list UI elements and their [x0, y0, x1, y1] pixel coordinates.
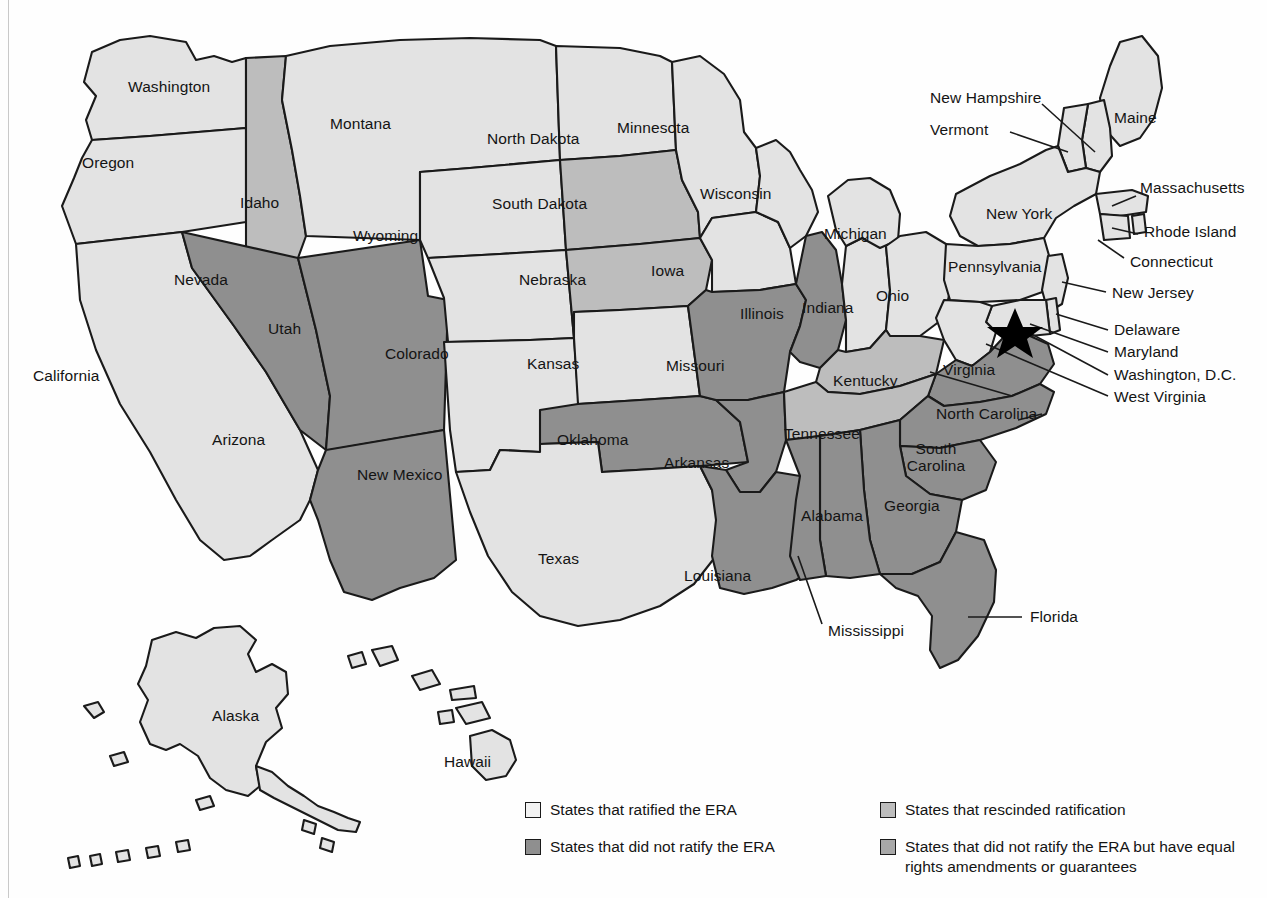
label-maryland: Maryland — [1114, 344, 1179, 361]
label-michigan: Michigan — [824, 226, 887, 243]
legend-column-2: States that rescinded ratification State… — [880, 800, 1255, 893]
legend-item-rescinded[interactable]: States that rescinded ratification — [880, 800, 1255, 820]
label-new-york: New York — [986, 206, 1052, 223]
label-pennsylvania: Pennsylvania — [948, 259, 1041, 276]
label-wyoming: Wyoming — [353, 228, 418, 245]
label-california: California — [33, 368, 99, 385]
state-missouri[interactable] — [688, 284, 806, 400]
hawaii-island-maui[interactable] — [456, 702, 490, 724]
label-maine: Maine — [1114, 110, 1157, 127]
label-ohio: Ohio — [876, 288, 909, 305]
legend-label-ratified: States that ratified the ERA — [550, 800, 737, 820]
label-rhode-island: Rhode Island — [1144, 224, 1237, 241]
hawaii-island-oahu[interactable] — [412, 670, 440, 690]
label-west-virginia: West Virginia — [1114, 389, 1206, 406]
label-kansas: Kansas — [527, 356, 579, 373]
label-new-mexico: New Mexico — [357, 467, 442, 484]
label-florida: Florida — [1030, 609, 1078, 626]
label-oklahoma: Oklahoma — [557, 432, 628, 449]
label-virginia: Virginia — [943, 362, 995, 379]
alaska-island-5[interactable] — [146, 846, 160, 858]
label-vermont: Vermont — [930, 122, 988, 139]
label-washington: Washington — [128, 79, 210, 96]
map-figure: Washington Oregon Idaho Montana North Da… — [0, 0, 1267, 898]
legend-swatch-ratified — [525, 802, 541, 818]
label-connecticut: Connecticut — [1130, 254, 1213, 271]
legend-item-not-ratified[interactable]: States that did not ratify the ERA — [525, 837, 855, 857]
label-arkansas: Arkansas — [664, 455, 729, 472]
label-south-dakota: South Dakota — [492, 196, 587, 213]
label-arizona: Arizona — [212, 432, 265, 449]
alaska-island-3[interactable] — [196, 796, 214, 810]
hawaii-island-molokai[interactable] — [450, 686, 476, 700]
state-arizona[interactable] — [310, 430, 456, 600]
label-colorado: Colorado — [385, 346, 449, 363]
label-minnesota: Minnesota — [617, 120, 689, 137]
label-massachusetts: Massachusetts — [1140, 180, 1245, 197]
label-montana: Montana — [330, 116, 391, 133]
hawaii-island-kauai[interactable] — [372, 646, 398, 666]
label-new-hampshire: New Hampshire — [930, 90, 1042, 107]
label-utah: Utah — [268, 321, 301, 338]
alaska-island-10[interactable] — [320, 838, 334, 852]
hawaii-island-niihau[interactable] — [348, 652, 366, 668]
alaska-island-6[interactable] — [116, 850, 130, 862]
label-delaware: Delaware — [1114, 322, 1180, 339]
state-colorado[interactable] — [428, 250, 574, 342]
legend-label-rescinded: States that rescinded ratification — [905, 800, 1126, 820]
legend: States that ratified the ERA States that… — [525, 800, 1255, 878]
label-indiana: Indiana — [802, 300, 854, 317]
label-wisconsin: Wisconsin — [700, 186, 772, 203]
label-louisiana: Louisiana — [684, 568, 751, 585]
legend-item-ratified[interactable]: States that ratified the ERA — [525, 800, 855, 820]
label-nebraska: Nebraska — [519, 272, 586, 289]
alaska-island-9[interactable] — [302, 820, 316, 834]
leader-delaware — [1056, 314, 1108, 330]
label-new-jersey: New Jersey — [1112, 285, 1194, 302]
state-kansas[interactable] — [574, 306, 700, 404]
legend-swatch-not-ratified — [525, 839, 541, 855]
leader-new-jersey — [1062, 282, 1106, 292]
label-hawaii: Hawaii — [444, 754, 491, 771]
state-connecticut[interactable] — [1100, 214, 1130, 240]
label-mississippi: Mississippi — [828, 623, 904, 640]
label-nevada: Nevada — [174, 272, 228, 289]
label-oregon: Oregon — [82, 155, 134, 172]
legend-column-1: States that ratified the ERA States that… — [525, 800, 855, 874]
legend-label-not-ratified: States that did not ratify the ERA — [550, 837, 775, 857]
label-alaska: Alaska — [212, 708, 259, 725]
label-iowa: Iowa — [651, 263, 684, 280]
label-washington-dc: Washington, D.C. — [1114, 367, 1237, 384]
label-alabama: Alabama — [801, 508, 863, 525]
label-north-dakota: North Dakota — [487, 131, 580, 148]
label-texas: Texas — [538, 551, 579, 568]
label-tennessee: Tennessee — [784, 426, 860, 443]
label-south-carolina: South Carolina — [896, 441, 976, 474]
label-missouri: Missouri — [666, 358, 725, 375]
alaska-island-8[interactable] — [68, 856, 80, 868]
legend-item-not-ratified-state-era[interactable]: States that did not ratify the ERA but h… — [880, 837, 1255, 877]
alaska-island-1[interactable] — [84, 702, 104, 718]
label-north-carolina: North Carolina — [936, 406, 1037, 423]
label-kentucky: Kentucky — [833, 373, 898, 390]
label-georgia: Georgia — [884, 498, 940, 515]
alaska-island-4[interactable] — [176, 840, 190, 852]
legend-swatch-rescinded — [880, 802, 896, 818]
alaska-island-7[interactable] — [90, 854, 102, 866]
alaska-island-2[interactable] — [110, 752, 128, 766]
label-idaho: Idaho — [240, 195, 279, 212]
state-oregon[interactable] — [62, 128, 246, 244]
leader-connecticut — [1098, 240, 1124, 258]
legend-swatch-not-ratified-state-era — [880, 839, 896, 855]
label-illinois: Illinois — [740, 306, 784, 323]
hawaii-island-lanai[interactable] — [438, 710, 454, 724]
legend-label-not-ratified-state-era: States that did not ratify the ERA but h… — [905, 837, 1250, 877]
